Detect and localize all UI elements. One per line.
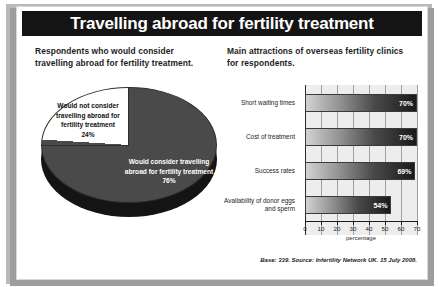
bar: 70% [305, 94, 417, 112]
x-axis-title: percentage [305, 235, 417, 241]
bar-chart: Short waiting times70%Cost of treatment7… [223, 85, 423, 235]
bar-category-label: Short waiting times [223, 87, 299, 119]
bar-track: 70% [305, 94, 417, 112]
pie-slice-value: 24% [81, 131, 94, 138]
bar: 69% [305, 162, 415, 180]
pie-slice-label-would-consider: Would consider travelling abroad for fer… [119, 157, 219, 186]
gridline [417, 85, 418, 235]
pie-slice-divider-vertical [128, 87, 129, 145]
pie-slice-value: 76% [162, 177, 175, 184]
bar-category-label: Cost of treatment [223, 121, 299, 153]
bar: 54% [305, 196, 391, 214]
bar-category-label: Availability of donor eggs and sperm [223, 189, 299, 221]
left-panel-heading: Respondents who would consider travellin… [27, 41, 205, 69]
bar-category-label: Success rates [223, 155, 299, 187]
title-bar: Travelling abroad for fertility treatmen… [22, 11, 422, 36]
left-panel: Respondents who would consider travellin… [27, 41, 223, 273]
bar-track: 54% [305, 196, 391, 214]
bar-track: 70% [305, 128, 417, 146]
bar-value-label: 69% [397, 168, 411, 175]
x-axis-tick-label: 70 [408, 225, 426, 232]
infographic-card: Travelling abroad for fertility treatmen… [16, 6, 428, 280]
pie-slice-label-text: Would not consider travelling abroad for… [56, 102, 120, 128]
pie-slice-divider-horizontal [41, 145, 129, 146]
bar-track: 69% [305, 162, 415, 180]
bar-value-label: 54% [373, 202, 387, 209]
source-note: Base: 339. Source: Infertility Network U… [221, 257, 421, 263]
bar-value-label: 70% [399, 100, 413, 107]
bar-value-label: 70% [399, 134, 413, 141]
pie-chart: Would not consider travelling abroad for… [33, 79, 223, 229]
right-panel-heading: Main attractions of overseas fertility c… [221, 41, 407, 69]
pie-slice-label-text: Would consider travelling abroad for fer… [125, 158, 213, 175]
bar: 70% [305, 128, 417, 146]
infographic-page: Travelling abroad for fertility treatmen… [0, 0, 438, 287]
pie-slice-label-would-not-consider: Would not consider travelling abroad for… [49, 101, 127, 139]
right-panel: Main attractions of overseas fertility c… [221, 41, 425, 273]
page-title: Travelling abroad for fertility treatmen… [22, 11, 422, 36]
